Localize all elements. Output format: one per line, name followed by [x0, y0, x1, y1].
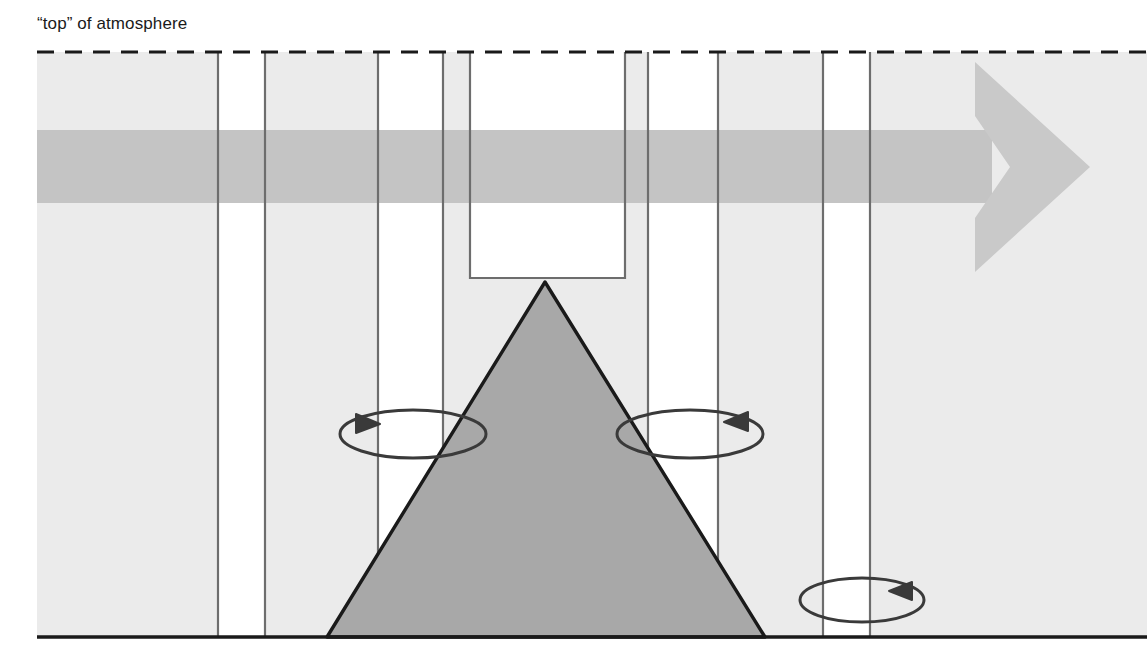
figure-canvas: [0, 0, 1147, 664]
atmosphere-column-figure: “top” of atmosphere: [0, 0, 1147, 664]
wind-arrow-shaft: [37, 130, 992, 203]
